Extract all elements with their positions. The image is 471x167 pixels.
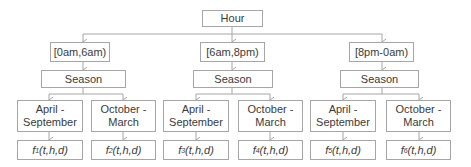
root-node-hour: Hour: [202, 10, 263, 27]
node-range-6am-8pm: [6am,8pm): [200, 42, 265, 62]
node-function-f6: f6(t,h,d): [386, 140, 451, 160]
node-april-september-3: April - September: [310, 100, 376, 132]
node-april-september-1: April - September: [17, 100, 83, 132]
node-label: Season: [214, 73, 251, 86]
node-label-line2: September: [23, 116, 77, 129]
node-label-line1: April -: [36, 103, 65, 116]
node-function-f3: f3(t,h,d): [163, 140, 229, 160]
node-label: [6am,8pm): [206, 46, 259, 59]
node-label-line1: April -: [182, 103, 211, 116]
node-range-0am-6am: [0am,6am): [50, 42, 110, 62]
node-label-line2: September: [316, 116, 370, 129]
node-label-line1: April -: [329, 103, 358, 116]
node-label: [0am,6am): [54, 46, 107, 59]
function-args: (t,h,d): [332, 144, 361, 157]
node-label-line1: October -: [248, 103, 294, 116]
node-label: Hour: [221, 12, 245, 25]
node-season-3: Season: [340, 70, 419, 88]
function-args: (t,h,d): [39, 144, 68, 157]
node-october-march-1: October - March: [91, 100, 156, 132]
node-april-september-2: April - September: [163, 100, 229, 132]
function-args: (t,h,d): [260, 144, 289, 157]
node-label: Season: [65, 73, 102, 86]
node-label: [8pm-0am): [355, 46, 408, 59]
node-season-1: Season: [41, 70, 126, 88]
node-range-8pm-0am: [8pm-0am): [349, 42, 414, 62]
node-label-line2: March: [108, 116, 139, 129]
function-args: (t,h,d): [408, 144, 437, 157]
node-label-line2: September: [169, 116, 223, 129]
node-october-march-3: October - March: [386, 100, 451, 132]
node-function-f1: f1(t,h,d): [17, 140, 83, 160]
node-function-f4: f4(t,h,d): [238, 140, 303, 160]
function-args: (t,h,d): [113, 144, 142, 157]
function-args: (t,h,d): [185, 144, 214, 157]
node-label-line2: March: [403, 116, 434, 129]
node-label-line1: October -: [396, 103, 442, 116]
node-function-f2: f2(t,h,d): [91, 140, 156, 160]
node-function-f5: f5(t,h,d): [310, 140, 376, 160]
node-label: Season: [361, 73, 398, 86]
node-label-line1: October -: [101, 103, 147, 116]
node-label-line2: March: [255, 116, 286, 129]
node-october-march-2: October - March: [238, 100, 303, 132]
node-season-2: Season: [193, 70, 273, 88]
